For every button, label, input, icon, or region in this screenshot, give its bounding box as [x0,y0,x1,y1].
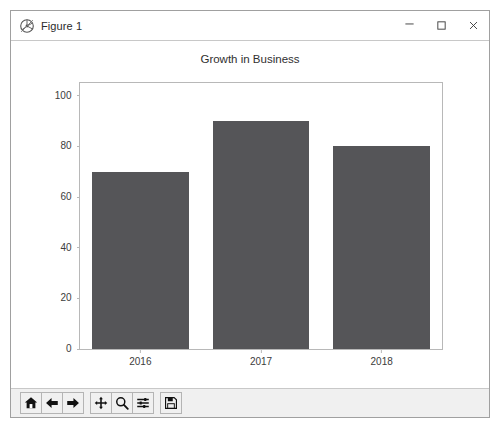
y-tick-mark [77,349,81,350]
matplotlib-logo-icon [19,18,35,34]
maximize-button[interactable] [425,11,457,40]
pan-icon [94,396,108,410]
bar-series [80,83,442,349]
bar-slot [321,83,442,349]
plot-axes: 020406080100 201620172018 [79,82,443,350]
y-tick-label: 20 [60,293,76,303]
x-tick: 2016 [129,349,151,367]
x-tick: 2018 [371,349,393,367]
y-tick-mark [77,146,81,147]
toolbar-separator-2 [153,392,160,414]
figure-canvas[interactable]: Growth in Business 020406080100 20162017… [11,40,489,389]
bar-2017 [213,121,310,349]
window-titlebar[interactable]: Figure 1 [11,11,489,40]
x-tick-label: 2017 [250,357,272,367]
toolbar-separator [83,392,90,414]
zoom-button[interactable] [111,392,133,414]
bar-2016 [92,172,189,349]
y-tick-mark [77,247,81,248]
x-tick-label: 2018 [371,357,393,367]
chart-title: Growth in Business [11,53,489,65]
back-button[interactable] [41,392,63,414]
close-button[interactable] [457,11,489,40]
y-tick-mark [77,197,81,198]
configure-subplots-icon [136,396,150,410]
x-tick: 2017 [250,349,272,367]
y-tick-label: 100 [55,90,77,100]
x-tick-label: 2016 [129,357,151,367]
figure-window: Figure 1 Growth in Business 02 [10,10,490,418]
back-arrow-icon [45,396,59,410]
zoom-icon [115,396,129,410]
x-tick-mark [261,349,262,353]
save-icon [164,396,178,410]
x-tick-mark [381,349,382,353]
x-tick-mark [140,349,141,353]
plot-area [80,83,442,349]
minimize-button[interactable] [393,11,425,40]
bar-2018 [333,146,430,349]
y-tick-label: 80 [60,141,76,151]
window-title: Figure 1 [41,20,82,32]
window-controls [393,11,489,40]
save-button[interactable] [160,392,182,414]
bar-slot [201,83,322,349]
home-button[interactable] [20,392,42,414]
y-tick-mark [77,298,81,299]
y-tick-label: 0 [66,344,77,354]
configure-subplots-button[interactable] [132,392,154,414]
forward-arrow-icon [66,396,80,410]
forward-button[interactable] [62,392,84,414]
navigation-toolbar [11,389,489,417]
y-tick-mark [77,95,81,96]
y-tick-label: 40 [60,242,76,252]
home-icon [24,396,38,410]
y-tick-label: 60 [60,192,76,202]
screenshot-root: Figure 1 Growth in Business 02 [0,0,500,429]
bar-slot [80,83,201,349]
pan-button[interactable] [90,392,112,414]
